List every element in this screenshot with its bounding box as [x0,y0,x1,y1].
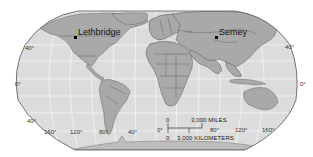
city-marker-semey [215,36,218,39]
lat-label-right-equator: 0° [300,81,306,87]
lon-label-40w: 40° [128,129,137,135]
city-label-semey: Semey [219,28,247,37]
lon-label-80w: 80° [99,129,108,135]
scale-miles-zero: 0 [166,117,169,123]
scale-km-label: 3,000 KILOMETERS [177,135,234,141]
lon-label-120e: 120° [235,127,247,133]
city-marker-lethbridge [74,36,77,39]
scale-km-zero: 0 [166,135,169,141]
lat-label-left-40n: 40° [25,45,34,51]
lon-label-80e: 80° [210,127,219,133]
lon-label-0: 0° [157,127,163,133]
lat-label-left-equator: 0° [15,81,21,87]
lat-label-left-40s: 40° [27,118,36,124]
lon-label-160w: 160° [44,129,56,135]
lon-label-120w: 120° [70,129,82,135]
city-label-lethbridge: Lethbridge [78,28,121,37]
lon-label-160e: 160° [262,127,274,133]
lat-label-right-40n: 40° [285,44,294,50]
scale-miles-label: 3,000 MILES [191,117,227,123]
